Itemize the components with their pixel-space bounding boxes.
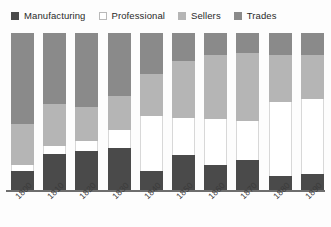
- legend-swatch-icon: [178, 12, 186, 20]
- bar-segment-professional: [43, 146, 66, 154]
- legend-item-label: Professional: [112, 11, 165, 21]
- x-axis-tick-labels: 1800181018201830184018501860187018801890: [0, 192, 331, 227]
- bar-segment-sellers: [204, 55, 227, 119]
- legend-item-label: Sellers: [191, 11, 221, 21]
- legend-item-sellers[interactable]: Sellers: [178, 11, 221, 21]
- stacked-bar-chart: ManufacturingProfessionalSellersTrades 1…: [0, 0, 331, 227]
- legend-swatch-icon: [99, 12, 107, 20]
- bar-segment-sellers: [11, 124, 34, 165]
- legend-item-label: Manufacturing: [24, 11, 86, 21]
- bar-1800[interactable]: [11, 33, 34, 190]
- legend-item-manufacturing[interactable]: Manufacturing: [11, 11, 86, 21]
- bar-segment-trades: [11, 33, 34, 124]
- bar-segment-trades: [108, 33, 131, 96]
- bar-segment-sellers: [140, 74, 163, 116]
- bar-segment-professional: [301, 99, 324, 174]
- bar-segment-trades: [172, 33, 195, 61]
- bar-segment-trades: [269, 33, 292, 55]
- bar-1840[interactable]: [140, 33, 163, 190]
- chart-legend: ManufacturingProfessionalSellersTrades: [0, 8, 331, 24]
- bar-segment-trades: [236, 33, 259, 53]
- bar-segment-professional: [75, 141, 98, 150]
- bar-1890[interactable]: [301, 33, 324, 190]
- bar-1850[interactable]: [172, 33, 195, 190]
- bar-segment-sellers: [172, 61, 195, 118]
- plot-area: [0, 33, 331, 190]
- bar-1830[interactable]: [108, 33, 131, 190]
- bar-segment-trades: [43, 33, 66, 104]
- bar-segment-sellers: [236, 53, 259, 121]
- bar-segment-trades: [75, 33, 98, 107]
- legend-item-trades[interactable]: Trades: [234, 11, 277, 21]
- legend-swatch-icon: [11, 12, 19, 20]
- bar-1820[interactable]: [75, 33, 98, 190]
- bar-segment-professional: [269, 102, 292, 176]
- bar-segment-sellers: [108, 96, 131, 131]
- bar-1810[interactable]: [43, 33, 66, 190]
- bar-segment-trades: [204, 33, 227, 55]
- bar-segment-professional: [204, 119, 227, 165]
- bar-segment-sellers: [269, 55, 292, 102]
- bar-1870[interactable]: [236, 33, 259, 190]
- bar-segment-sellers: [301, 55, 324, 99]
- legend-item-label: Trades: [247, 11, 277, 21]
- bar-segment-sellers: [75, 107, 98, 142]
- bar-segment-professional: [108, 130, 131, 147]
- bar-segment-trades: [140, 33, 163, 74]
- bar-segment-professional: [236, 121, 259, 160]
- bar-segment-sellers: [43, 104, 66, 146]
- bar-segment-professional: [140, 116, 163, 171]
- legend-item-professional[interactable]: Professional: [99, 11, 165, 21]
- bar-segment-professional: [172, 118, 195, 156]
- legend-swatch-icon: [234, 12, 242, 20]
- bar-segment-trades: [301, 33, 324, 55]
- bar-1860[interactable]: [204, 33, 227, 190]
- bar-1880[interactable]: [269, 33, 292, 190]
